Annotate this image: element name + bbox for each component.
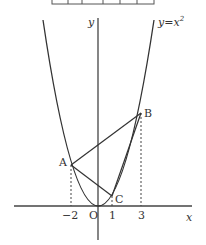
point-a-label: A — [58, 156, 68, 169]
table-fragment — [52, 0, 154, 4]
curve-label: y=x2 — [157, 15, 185, 29]
triangle-abc — [71, 113, 141, 196]
y-axis-label: y — [87, 16, 95, 29]
segment-bc — [112, 113, 141, 196]
tick-label-1: 1 — [109, 209, 116, 222]
origin-label: O — [89, 209, 98, 222]
segment-ac — [71, 165, 112, 196]
point-b-label: B — [144, 107, 152, 120]
tick-label-neg2: −2 — [62, 209, 78, 222]
parabola-diagram: y y=x2 B A C x −2 O 1 3 — [0, 0, 206, 245]
point-c-label: C — [115, 193, 123, 206]
tick-label-3: 3 — [138, 209, 145, 222]
x-axis-label: x — [186, 211, 193, 224]
segment-ab — [71, 113, 141, 165]
